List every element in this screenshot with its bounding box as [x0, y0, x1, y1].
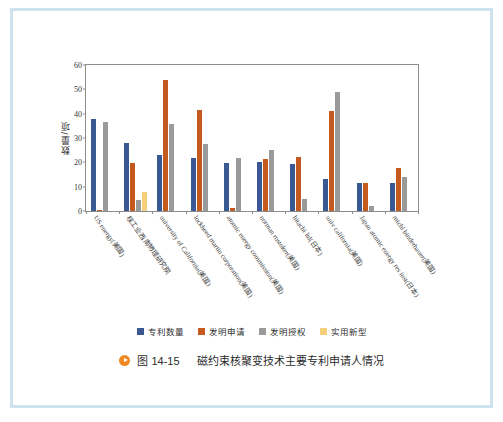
- bar-chart-figure: 数量/项 0102030405060 US energy(美国)核工业西南物理研…: [17, 15, 486, 401]
- bar[interactable]: [396, 168, 401, 211]
- bar-group: [186, 65, 219, 211]
- bar[interactable]: [224, 163, 229, 211]
- bar[interactable]: [142, 192, 147, 211]
- bar[interactable]: [191, 158, 196, 211]
- y-tick-label: 50: [74, 85, 82, 94]
- bar[interactable]: [91, 119, 96, 211]
- bar[interactable]: [269, 150, 274, 211]
- bar[interactable]: [136, 200, 141, 211]
- bar[interactable]: [203, 144, 208, 211]
- bar[interactable]: [357, 183, 362, 211]
- bar[interactable]: [236, 158, 241, 211]
- legend-swatch-icon: [137, 328, 144, 335]
- figure-container: 数量/项 0102030405060 US energy(美国)核工业西南物理研…: [17, 15, 486, 401]
- bar[interactable]: [363, 183, 368, 211]
- x-axis-label: atomic energy commission(美国): [225, 213, 287, 296]
- y-tick-label: 20: [74, 158, 82, 167]
- play-bullet-icon: [119, 355, 130, 366]
- bar[interactable]: [197, 110, 202, 211]
- bar[interactable]: [390, 183, 395, 211]
- bar-group: [219, 65, 252, 211]
- bar[interactable]: [103, 122, 108, 211]
- legend-item[interactable]: 实用新型: [320, 325, 367, 337]
- chart-legend: 专利数量发明申请发明授权实用新型: [17, 325, 486, 337]
- page-root: 数量/项 0102030405060 US energy(美国)核工业西南物理研…: [0, 0, 503, 422]
- figure-number: 图 14-15: [137, 352, 179, 368]
- bar-group: [318, 65, 351, 211]
- y-axis-title: 数量/项: [57, 64, 71, 212]
- x-axis-label: hitachi ltd(日本): [291, 213, 326, 257]
- y-tick-label: 60: [74, 61, 82, 70]
- legend-item[interactable]: 发明授权: [259, 325, 306, 337]
- figure-caption: 图 14-15 磁约束核聚变技术主要专利申请人情况: [17, 352, 486, 368]
- bar[interactable]: [296, 157, 301, 211]
- y-tick-label: 40: [74, 109, 82, 118]
- bar[interactable]: [369, 206, 374, 211]
- bar[interactable]: [169, 124, 174, 211]
- plot-frame: 0102030405060: [85, 64, 419, 212]
- bar[interactable]: [257, 162, 262, 211]
- bar[interactable]: [302, 199, 307, 211]
- legend-label: 发明申请: [209, 325, 245, 337]
- legend-item[interactable]: 专利数量: [137, 325, 184, 337]
- bar[interactable]: [263, 159, 268, 211]
- bar[interactable]: [329, 111, 334, 211]
- y-tick-label: 0: [78, 207, 82, 216]
- legend-item[interactable]: 发明申请: [198, 325, 245, 337]
- plot-area: 0102030405060: [86, 65, 418, 211]
- bar-group: [86, 65, 119, 211]
- x-axis-label: US energy(美国): [92, 213, 128, 258]
- legend-swatch-icon: [259, 328, 266, 335]
- figure-title: 磁约束核聚变技术主要专利申请人情况: [197, 352, 384, 368]
- x-axis-labels: US energy(美国)核工业西南物理研究院university of Cal…: [85, 213, 419, 323]
- legend-swatch-icon: [198, 328, 205, 335]
- bar-group: [285, 65, 318, 211]
- bar[interactable]: [124, 143, 129, 211]
- bar[interactable]: [130, 163, 135, 211]
- bar[interactable]: [157, 155, 162, 211]
- bar[interactable]: [323, 179, 328, 211]
- y-tick-label: 30: [74, 134, 82, 143]
- legend-label: 发明授权: [270, 325, 306, 337]
- bar-group: [385, 65, 418, 211]
- legend-label: 专利数量: [148, 325, 184, 337]
- legend-swatch-icon: [320, 328, 327, 335]
- bar-group: [119, 65, 152, 211]
- bar[interactable]: [290, 164, 295, 211]
- legend-label: 实用新型: [331, 325, 367, 337]
- y-axis-title-label: 数量/项: [58, 121, 71, 155]
- bar-group: [152, 65, 185, 211]
- bar-group: [352, 65, 385, 211]
- bar[interactable]: [230, 208, 235, 211]
- bar[interactable]: [335, 92, 340, 211]
- bar[interactable]: [402, 177, 407, 211]
- bar-group: [252, 65, 285, 211]
- x-axis-label: Japan atomic energy res inst(日本): [357, 213, 421, 299]
- bar[interactable]: [97, 210, 102, 211]
- x-axis-label: lockheed martin corporation(美国): [191, 213, 255, 299]
- y-tick-label: 10: [74, 182, 82, 191]
- bar[interactable]: [163, 80, 168, 211]
